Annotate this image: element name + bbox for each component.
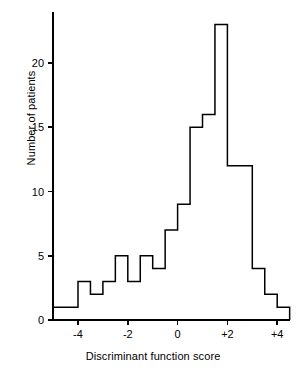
x-tick-label: 0 xyxy=(175,328,181,340)
axis-layer xyxy=(53,12,290,320)
histogram-outline-path xyxy=(53,24,290,320)
x-tick-label: -4 xyxy=(73,328,83,340)
histogram-figure: 05101520-4-20+2+4 Number of patients Dis… xyxy=(0,0,306,379)
y-tick-label: 0 xyxy=(38,314,44,326)
y-tick-label: 5 xyxy=(38,250,44,262)
x-axis-title: Discriminant function score xyxy=(0,350,306,362)
x-tick-label: +4 xyxy=(271,328,284,340)
histogram-step-outline xyxy=(53,24,290,320)
x-tick-label: -2 xyxy=(123,328,133,340)
x-tick-label: +2 xyxy=(221,328,234,340)
histogram-plot: 05101520-4-20+2+4 xyxy=(0,0,306,379)
tick-layer: 05101520-4-20+2+4 xyxy=(32,57,284,340)
y-axis-title: Number of patients xyxy=(25,43,37,193)
